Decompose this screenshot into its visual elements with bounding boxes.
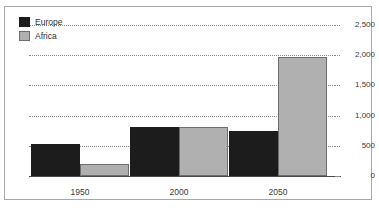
bar-europe-2050[interactable]: [229, 131, 278, 176]
bar-africa-2050[interactable]: [278, 57, 327, 176]
bar-africa-1950[interactable]: [80, 164, 129, 176]
chart-frame: 2,5002,0001,5001,0005000 195020002050 Eu…: [4, 6, 372, 200]
y-tick-mark-2000: [335, 55, 340, 56]
x-tick-label-1950: 1950: [31, 188, 129, 197]
bar-europe-2000[interactable]: [130, 127, 179, 176]
y-tick-label-0: 0: [341, 172, 375, 180]
y-tick-label-500: 500: [341, 142, 375, 150]
y-tick-mark-1500: [335, 85, 340, 86]
legend-item-europe[interactable]: Europe: [19, 16, 62, 28]
legend-item-africa[interactable]: Africa: [19, 30, 62, 42]
chart-plot-area: 2,5002,0001,5001,0005000 195020002050 Eu…: [5, 7, 371, 199]
y-tick-label-2500: 2,500: [341, 21, 375, 29]
y-tick-label-2000: 2,000: [341, 51, 375, 59]
x-tick-label-2000: 2000: [130, 188, 228, 197]
y-tick-mark-2500: [335, 25, 340, 26]
y-tick-mark-1000: [335, 116, 340, 117]
y-tick-label-1500: 1,500: [341, 81, 375, 89]
legend-label-africa: Africa: [35, 32, 57, 41]
axis-baseline: [29, 176, 341, 177]
y-tick-label-1000: 1,000: [341, 112, 375, 120]
gridline-2500: [29, 25, 335, 26]
y-tick-mark-0: [335, 176, 340, 177]
legend-swatch-africa-icon: [19, 31, 30, 41]
bar-europe-1950[interactable]: [31, 144, 80, 176]
y-tick-mark-500: [335, 146, 340, 147]
bar-africa-2000[interactable]: [179, 127, 228, 176]
clipped-text-sliver: [6, 0, 206, 4]
legend-swatch-europe-icon: [19, 17, 30, 27]
legend-label-europe: Europe: [35, 18, 62, 27]
chart-legend: Europe Africa: [19, 16, 62, 44]
x-tick-label-2050: 2050: [229, 188, 327, 197]
